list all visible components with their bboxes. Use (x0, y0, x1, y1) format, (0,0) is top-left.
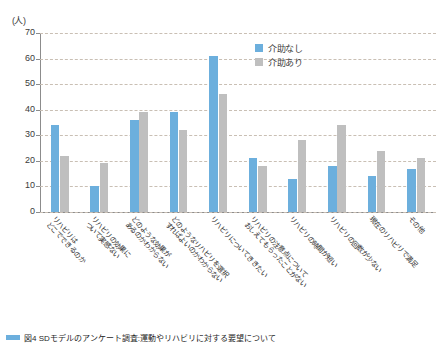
category-label: その他 (406, 215, 426, 235)
y-axis-tick-label: 40 (13, 104, 35, 114)
bar-assist-none (407, 169, 416, 212)
bar-assist-yes (298, 140, 307, 212)
y-axis-tick-label: 10 (13, 180, 35, 190)
gridline (40, 212, 436, 213)
bar-assist-yes (377, 151, 386, 212)
y-axis-unit-label: (人) (12, 14, 26, 27)
category-label-line: その他 (406, 215, 426, 235)
legend-label: 介助あり (268, 56, 303, 69)
bar-assist-yes (219, 94, 228, 212)
legend-label: 介助なし (268, 42, 303, 55)
figure-caption: 図4 SDモデルのアンケート調査:運動やリハビリに対する要望について (6, 332, 276, 343)
y-axis-tick-label: 30 (13, 129, 35, 139)
bar-assist-none (130, 120, 139, 212)
plot-area: 010203040506070 (40, 33, 436, 212)
legend-swatch-icon (255, 58, 263, 66)
y-axis-tick (36, 212, 40, 213)
bar-assist-yes (100, 163, 109, 212)
caption-text: 図4 SDモデルのアンケート調査:運動やリハビリに対する要望について (24, 332, 276, 343)
bar-assist-none (209, 56, 218, 212)
y-axis-tick-label: 20 (13, 155, 35, 165)
bar-group (357, 33, 397, 212)
bar-group (159, 33, 199, 212)
bar-assist-yes (258, 166, 267, 212)
y-axis-tick-label: 50 (13, 78, 35, 88)
bar-assist-yes (139, 112, 148, 212)
caption-marker-icon (6, 335, 20, 340)
x-axis-category-labels: リハビリはどこでできるのかリハビリの効果について実感ないどのような効果があるのか… (0, 215, 444, 325)
bar-series-layer (40, 33, 436, 212)
bar-assist-none (170, 112, 179, 212)
bar-assist-none (328, 166, 337, 212)
chart-legend: 介助なし介助あり (255, 41, 303, 69)
bar-assist-none (51, 125, 60, 212)
bar-assist-none (249, 158, 258, 212)
bar-group (80, 33, 120, 212)
bar-assist-none (368, 176, 377, 212)
y-axis-tick-label: 70 (13, 27, 35, 37)
legend-item[interactable]: 介助なし (255, 41, 303, 55)
bar-assist-none (90, 186, 99, 212)
bar-assist-yes (417, 158, 426, 212)
bar-assist-yes (337, 125, 346, 212)
bar-assist-yes (179, 130, 188, 212)
category-label: リハビリの効果について実感ない (83, 215, 132, 266)
bar-group (396, 33, 436, 212)
bar-group (119, 33, 159, 212)
bar-group (40, 33, 80, 212)
bar-assist-yes (60, 156, 69, 212)
legend-swatch-icon (255, 44, 263, 52)
legend-item[interactable]: 介助あり (255, 55, 303, 69)
bar-group (317, 33, 357, 212)
y-axis-tick-label: 60 (13, 53, 35, 63)
bar-group (198, 33, 238, 212)
bar-assist-none (288, 179, 297, 212)
